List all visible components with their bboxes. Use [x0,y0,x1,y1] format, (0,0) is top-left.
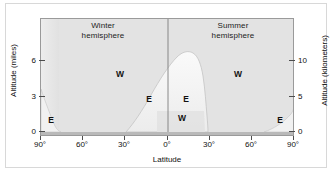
plot-area: W W W E E E E [40,18,294,136]
y-axis-right-tick-label-5: 5 [298,92,314,101]
y-axis-right-title: Altitude (kilometers) [320,26,329,116]
y-axis-left-tick-label-6: 6 [22,56,36,65]
y-axis-right-tick-mark-10 [289,60,295,61]
x-axis-tick-label-2: 30° [111,140,137,149]
y-axis-right-tick-mark-5 [289,96,295,97]
figure-root: W W W E E E E Winter hemisphere Summer h… [0,0,333,174]
x-axis-tick-label-0: 90° [27,140,53,149]
y-axis-left-tick-label-3: 3 [22,92,36,101]
y-axis-left-tick-mark-3 [39,96,45,97]
x-axis-tick-label-3: 0° [154,140,180,149]
y-axis-left-tick-label-0: 0 [22,127,36,136]
y-axis-left-tick-mark-0 [39,131,45,132]
sub-dome-westerly-pocket [157,111,205,132]
x-axis-tick-label-4: 30° [196,140,222,149]
y-axis-right-tick-label-10: 10 [298,56,314,65]
x-axis-title: Latitude [40,155,294,164]
x-axis-tick-label-1: 60° [69,140,95,149]
y-axis-right-tick-label-0: 0 [298,127,314,136]
y-axis-left-tick-mark-6 [39,60,45,61]
x-axis-tick-label-6: 90° [280,140,306,149]
y-axis-right-tick-mark-0 [289,131,295,132]
y-axis-left-title: Altitude (miles) [9,26,18,116]
plot-svg [41,19,294,136]
x-axis-tick-label-5: 60° [238,140,264,149]
